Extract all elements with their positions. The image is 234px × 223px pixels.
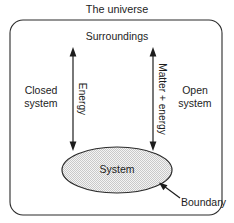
matter-energy-arrow-label: Matter + energy <box>157 63 168 136</box>
open-system-label-line2: system <box>178 97 212 109</box>
surroundings-label: Surroundings <box>86 30 148 42</box>
open-system-label: Open system <box>178 84 212 109</box>
energy-arrow-head-down <box>70 142 77 152</box>
boundary-leader-line <box>165 187 181 199</box>
open-system-label-line1: Open <box>182 84 208 96</box>
boundary-label: Boundary <box>181 196 227 208</box>
closed-system-label: Closed system <box>24 84 58 109</box>
boundary-arrow-head <box>159 183 168 191</box>
boundary-callout: Boundary <box>159 183 227 208</box>
system-label: System <box>99 163 134 175</box>
thermodynamic-system-diagram: The universe Surroundings Energy Matter … <box>0 0 234 223</box>
universe-title: The universe <box>86 3 148 15</box>
matter-energy-arrow-head-up <box>150 47 157 57</box>
matter-energy-arrow <box>150 47 157 151</box>
diagram-canvas: The universe Surroundings Energy Matter … <box>0 0 234 223</box>
energy-arrow-label: Energy <box>77 83 88 116</box>
energy-arrow <box>70 47 77 151</box>
closed-system-label-line2: system <box>24 97 58 109</box>
matter-energy-arrow-head-down <box>150 142 157 152</box>
closed-system-label-line1: Closed <box>25 84 58 96</box>
energy-arrow-head-up <box>70 47 77 57</box>
